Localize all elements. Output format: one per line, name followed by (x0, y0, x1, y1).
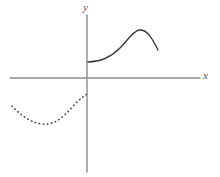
dotted-curve (12, 94, 87, 124)
x-axis-label: x (203, 70, 208, 81)
graph-figure: y x (0, 0, 220, 177)
solid-curve (88, 30, 158, 62)
y-axis-label: y (83, 2, 88, 13)
graph-canvas (0, 0, 220, 177)
